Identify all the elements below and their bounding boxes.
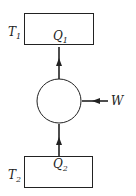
device-circle (37, 79, 81, 123)
hot-temp-label: T1 (8, 25, 21, 41)
cold-temp-label: T2 (8, 168, 21, 184)
work-arrowhead-icon (92, 98, 100, 104)
q2-arrowhead-icon (56, 137, 62, 145)
heat-pump-diagram: T1 Q1 W T2 Q2 (0, 0, 136, 196)
q1-arrowhead-icon (56, 58, 62, 66)
hot-heat-label: Q1 (53, 29, 68, 45)
cold-heat-label: Q2 (53, 157, 68, 173)
work-label: W (111, 94, 125, 108)
